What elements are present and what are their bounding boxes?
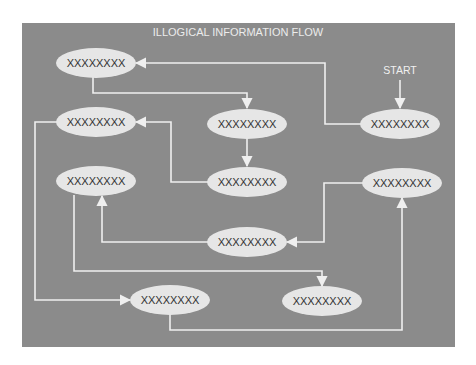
node-n3-start[interactable]: XXXXXXXX [360,109,440,139]
node-n5[interactable]: XXXXXXXX [207,167,287,197]
start-label: START [383,64,417,76]
node-n4[interactable]: XXXXXXXX [56,107,136,137]
node-label: XXXXXXXX [218,236,277,248]
node-n10[interactable]: XXXXXXXX [130,285,210,315]
node-n8[interactable]: XXXXXXXX [207,227,287,257]
node-n9[interactable]: XXXXXXXX [282,286,362,316]
node-label: XXXXXXXX [67,116,126,128]
node-label: XXXXXXXX [293,295,352,307]
node-n6[interactable]: XXXXXXXX [56,166,136,196]
node-n2[interactable]: XXXXXXXX [207,109,287,139]
node-n7[interactable]: XXXXXXXX [362,168,442,198]
diagram-title: ILLOGICAL INFORMATION FLOW [153,26,324,38]
node-label: XXXXXXXX [373,177,432,189]
node-label: XXXXXXXX [218,118,277,130]
node-label: XXXXXXXX [67,57,126,69]
node-n1[interactable]: XXXXXXXX [56,48,136,78]
node-label: XXXXXXXX [67,175,126,187]
node-label: XXXXXXXX [218,176,277,188]
diagram-canvas: ILLOGICAL INFORMATION FLOW START [0,0,476,365]
node-label: XXXXXXXX [141,294,200,306]
node-label: XXXXXXXX [371,118,430,130]
